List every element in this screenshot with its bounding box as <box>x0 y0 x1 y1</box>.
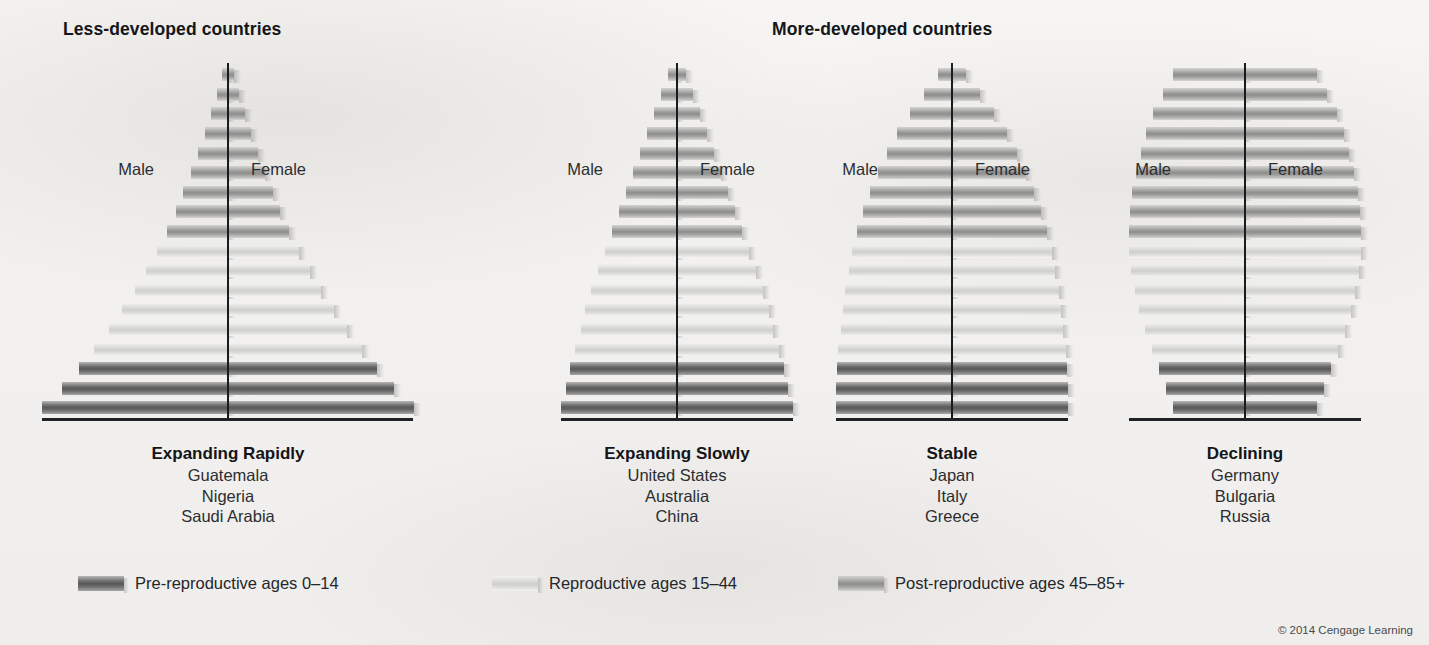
legend-item-reproductive: Reproductive ages 15–44 <box>492 574 737 593</box>
female-label: Female <box>1268 160 1323 179</box>
bar-female-50_54 <box>677 205 735 218</box>
bar-male-35_39 <box>849 264 952 277</box>
caption-country: United States <box>604 465 749 485</box>
bar-male-45_49 <box>167 225 228 238</box>
copyright-credit: © 2014 Cengage Learning <box>1278 624 1413 636</box>
bar-female-15_19 <box>228 343 362 356</box>
bar-male-50_54 <box>863 205 952 218</box>
bar-male-5_9 <box>62 382 228 395</box>
center-axis-line <box>676 63 678 418</box>
bar-male-10_14 <box>1159 362 1245 375</box>
bar-male-60_64 <box>191 166 228 179</box>
bar-female-45_49 <box>677 225 742 238</box>
bar-female-55_59 <box>228 186 273 199</box>
caption-country: Russia <box>1207 506 1284 526</box>
caption-country: Australia <box>604 486 749 506</box>
bar-male-45_49 <box>857 225 952 238</box>
bar-male-30_34 <box>135 284 228 297</box>
bar-female-50_54 <box>952 205 1041 218</box>
bar-male-10_14 <box>837 362 952 375</box>
bar-female-20_24 <box>228 323 347 336</box>
bar-female-55_59 <box>677 186 728 199</box>
bar-male-40_44 <box>1129 245 1245 258</box>
caption-title: Stable <box>925 443 979 464</box>
bar-female-75_79 <box>228 107 245 120</box>
legend-label-post-reproductive: Post-reproductive ages 45–85+ <box>895 574 1125 593</box>
bar-female-35_39 <box>228 264 310 277</box>
bar-female-65_69 <box>1245 147 1349 160</box>
bar-male-0_4 <box>42 401 228 414</box>
bar-male-35_39 <box>146 264 228 277</box>
bar-male-5_9 <box>1166 382 1245 395</box>
bar-male-55_59 <box>183 186 228 199</box>
bar-female-65_69 <box>677 147 714 160</box>
bar-female-45_49 <box>952 225 1047 238</box>
bar-female-40_44 <box>952 245 1052 258</box>
bar-male-50_54 <box>1130 205 1245 218</box>
baseline-axis <box>42 418 413 421</box>
bar-male-70_74 <box>1146 127 1245 140</box>
caption-expanding-rapidly: Expanding RapidlyGuatemalaNigeriaSaudi A… <box>151 443 304 526</box>
caption-country: China <box>604 506 749 526</box>
baseline-axis <box>1129 418 1361 421</box>
bar-male-15_19 <box>575 343 677 356</box>
bar-male-40_44 <box>852 245 952 258</box>
bar-male-55_59 <box>870 186 952 199</box>
bar-male-35_39 <box>1131 264 1245 277</box>
legend-swatch-pre-reproductive <box>78 576 124 591</box>
caption-stable: StableJapanItalyGreece <box>925 443 979 526</box>
bar-female-80_84 <box>952 88 980 101</box>
bar-male-5_9 <box>566 382 677 395</box>
bar-male-0_4 <box>1173 401 1245 414</box>
caption-country: Italy <box>925 486 979 506</box>
bar-female-85+ <box>677 68 686 81</box>
bar-female-85+ <box>228 68 234 81</box>
male-label: Male <box>1135 160 1171 179</box>
bar-female-5_9 <box>228 382 394 395</box>
caption-title: Expanding Slowly <box>604 443 749 464</box>
bar-male-25_29 <box>1139 303 1245 316</box>
bar-male-20_24 <box>581 323 677 336</box>
bar-female-70_74 <box>228 127 251 140</box>
bar-male-15_19 <box>94 343 228 356</box>
female-label: Female <box>700 160 755 179</box>
caption-declining: DecliningGermanyBulgariaRussia <box>1207 443 1284 526</box>
legend-item-post-reproductive: Post-reproductive ages 45–85+ <box>838 574 1125 593</box>
bar-male-10_14 <box>79 362 228 375</box>
bar-male-75_79 <box>1153 107 1245 120</box>
bar-female-35_39 <box>952 264 1055 277</box>
bar-male-30_34 <box>845 284 952 297</box>
bar-female-35_39 <box>677 264 756 277</box>
caption-country: Guatemala <box>151 465 304 485</box>
bar-female-75_79 <box>677 107 700 120</box>
bar-male-65_69 <box>198 147 228 160</box>
caption-expanding-slowly: Expanding SlowlyUnited StatesAustraliaCh… <box>604 443 749 526</box>
bar-male-20_24 <box>1145 323 1245 336</box>
bar-male-80_84 <box>924 88 952 101</box>
caption-title: Expanding Rapidly <box>151 443 304 464</box>
bar-male-30_34 <box>591 284 677 297</box>
bar-male-25_29 <box>585 303 677 316</box>
bar-female-5_9 <box>677 382 788 395</box>
bar-male-70_74 <box>205 127 228 140</box>
bar-male-75_79 <box>654 107 677 120</box>
bar-female-80_84 <box>228 88 239 101</box>
header-less-developed: Less-developed countries <box>63 19 281 40</box>
baseline-axis <box>561 418 793 421</box>
bar-female-70_74 <box>1245 127 1344 140</box>
bar-female-65_69 <box>952 147 1017 160</box>
bar-female-30_34 <box>677 284 763 297</box>
bar-female-25_29 <box>228 303 334 316</box>
bar-female-20_24 <box>1245 323 1345 336</box>
bar-female-25_29 <box>677 303 769 316</box>
bar-male-20_24 <box>841 323 952 336</box>
bar-female-45_49 <box>228 225 289 238</box>
center-axis-line <box>951 63 953 418</box>
caption-country: Nigeria <box>151 486 304 506</box>
bar-male-70_74 <box>897 127 952 140</box>
bar-male-40_44 <box>157 245 228 258</box>
baseline-axis <box>836 418 1068 421</box>
bar-male-80_84 <box>1163 88 1245 101</box>
bar-female-0_4 <box>677 401 793 414</box>
bar-male-75_79 <box>211 107 228 120</box>
